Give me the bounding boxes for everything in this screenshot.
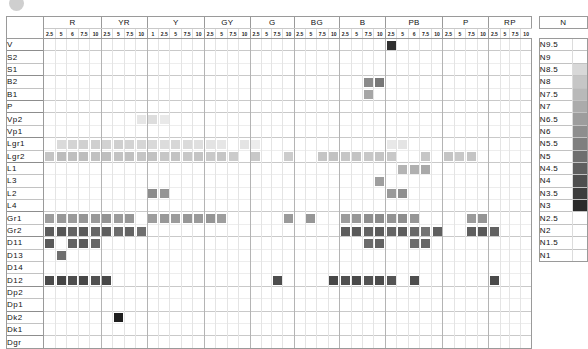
tone-cell[interactable] (55, 299, 66, 311)
tone-cell[interactable] (227, 274, 238, 286)
tone-cell[interactable] (340, 125, 351, 137)
tone-cell[interactable] (340, 262, 351, 274)
tone-cell[interactable] (44, 113, 55, 125)
tone-cell[interactable] (397, 125, 408, 137)
tone-cell[interactable] (328, 63, 339, 75)
tone-cell[interactable] (454, 212, 465, 224)
tone-cell[interactable] (443, 249, 454, 261)
tone-cell[interactable] (147, 212, 158, 224)
tone-cell[interactable] (328, 323, 339, 335)
tone-cell[interactable] (466, 299, 477, 311)
tone-cell[interactable] (147, 299, 158, 311)
tone-cell[interactable] (113, 138, 124, 150)
tone-cell[interactable] (317, 113, 328, 125)
tone-cell[interactable] (67, 224, 78, 236)
tone-cell[interactable] (124, 88, 135, 100)
tone-cell[interactable] (294, 187, 305, 199)
tone-cell[interactable] (90, 187, 101, 199)
tone-cell[interactable] (113, 162, 124, 174)
tone-cell[interactable] (443, 286, 454, 298)
tone-cell[interactable] (113, 299, 124, 311)
tone-cell[interactable] (408, 262, 419, 274)
tone-cell[interactable] (147, 237, 158, 249)
tone-cell[interactable] (78, 76, 89, 88)
tone-cell[interactable] (385, 187, 396, 199)
tone-cell[interactable] (397, 39, 408, 51)
tone-cell[interactable] (510, 162, 521, 174)
tone-cell[interactable] (489, 249, 500, 261)
tone-cell[interactable] (317, 187, 328, 199)
tone-cell[interactable] (408, 212, 419, 224)
tone-cell[interactable] (500, 125, 510, 137)
tone-cell[interactable] (385, 224, 396, 236)
tone-cell[interactable] (431, 138, 442, 150)
tone-cell[interactable] (181, 336, 192, 348)
tone-cell[interactable] (136, 286, 147, 298)
tone-cell[interactable] (443, 175, 454, 187)
tone-cell[interactable] (431, 39, 442, 51)
tone-cell[interactable] (351, 286, 362, 298)
tone-cell[interactable] (181, 88, 192, 100)
tone-cell[interactable] (283, 175, 294, 187)
tone-cell[interactable] (283, 76, 294, 88)
tone-cell[interactable] (443, 274, 454, 286)
tone-cell[interactable] (124, 286, 135, 298)
tone-cell[interactable] (78, 88, 89, 100)
tone-cell[interactable] (239, 336, 250, 348)
tone-cell[interactable] (317, 150, 328, 162)
tone-cell[interactable] (170, 224, 181, 236)
tone-cell[interactable] (181, 200, 192, 212)
tone-cell[interactable] (362, 286, 373, 298)
tone-cell[interactable] (90, 336, 101, 348)
tone-cell[interactable] (204, 63, 215, 75)
tone-cell[interactable] (489, 286, 500, 298)
tone-cell[interactable] (466, 63, 477, 75)
tone-cell[interactable] (44, 224, 55, 236)
tone-cell[interactable] (431, 336, 442, 348)
tone-cell[interactable] (317, 224, 328, 236)
tone-cell[interactable] (113, 187, 124, 199)
tone-cell[interactable] (431, 150, 442, 162)
tone-cell[interactable] (227, 237, 238, 249)
tone-cell[interactable] (124, 63, 135, 75)
tone-cell[interactable] (250, 311, 261, 323)
tone-cell[interactable] (181, 187, 192, 199)
tone-cell[interactable] (271, 262, 282, 274)
tone-cell[interactable] (408, 323, 419, 335)
tone-cell[interactable] (101, 311, 112, 323)
tone-cell[interactable] (193, 249, 204, 261)
tone-cell[interactable] (181, 125, 192, 137)
tone-cell[interactable] (44, 51, 55, 63)
tone-cell[interactable] (431, 249, 442, 261)
tone-cell[interactable] (101, 262, 112, 274)
tone-cell[interactable] (67, 175, 78, 187)
tone-cell[interactable] (283, 162, 294, 174)
tone-cell[interactable] (78, 175, 89, 187)
tone-cell[interactable] (362, 162, 373, 174)
tone-cell[interactable] (181, 224, 192, 236)
tone-cell[interactable] (397, 100, 408, 112)
tone-cell[interactable] (294, 125, 305, 137)
tone-cell[interactable] (305, 51, 316, 63)
tone-cell[interactable] (521, 125, 532, 137)
tone-cell[interactable] (351, 162, 362, 174)
tone-cell[interactable] (294, 51, 305, 63)
tone-cell[interactable] (67, 200, 78, 212)
tone-cell[interactable] (181, 299, 192, 311)
tone-cell[interactable] (262, 150, 272, 162)
tone-cell[interactable] (271, 224, 282, 236)
tone-cell[interactable] (510, 237, 521, 249)
tone-cell[interactable] (170, 249, 181, 261)
tone-cell[interactable] (362, 262, 373, 274)
tone-cell[interactable] (351, 150, 362, 162)
tone-cell[interactable] (294, 274, 305, 286)
tone-cell[interactable] (55, 336, 66, 348)
tone-cell[interactable] (283, 187, 294, 199)
tone-cell[interactable] (521, 175, 532, 187)
tone-cell[interactable] (521, 63, 532, 75)
tone-cell[interactable] (340, 274, 351, 286)
tone-cell[interactable] (362, 63, 373, 75)
tone-cell[interactable] (294, 150, 305, 162)
tone-cell[interactable] (262, 286, 272, 298)
tone-cell[interactable] (67, 237, 78, 249)
